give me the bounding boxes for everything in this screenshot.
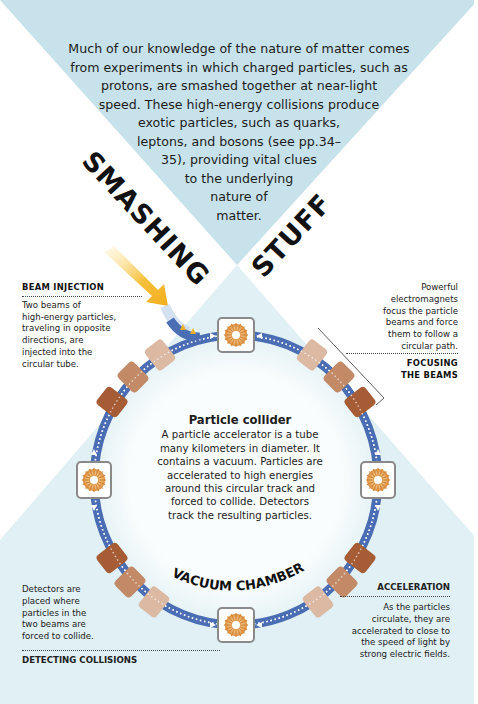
- acceleration-heading: ACCELERATION: [377, 582, 450, 594]
- label-line: particles in the: [22, 608, 122, 620]
- beam-injection-heading: BEAM INJECTION: [22, 282, 142, 294]
- focusing-heading: FOCUSING THE BEAMS: [401, 358, 458, 382]
- detector-top-icon: [218, 318, 254, 352]
- label-detecting-body: Detectors are placed where particles in …: [22, 584, 122, 643]
- leader-detecting: [22, 650, 220, 651]
- label-line: focus the particle: [348, 306, 458, 318]
- detector-right-icon: [361, 462, 395, 498]
- center-line: accelerated to high energies: [140, 469, 340, 482]
- detecting-collisions-heading: DETECTING COLLISIONS: [22, 655, 137, 667]
- particle-collider-description: Particle collider A particle accelerator…: [140, 414, 340, 522]
- label-line: placed where: [22, 596, 122, 608]
- label-line: accelerated to close to: [320, 626, 450, 638]
- label-line: them to follow a: [348, 329, 458, 341]
- label-line: Two beams of: [22, 300, 142, 312]
- center-line: around this circular track and: [140, 482, 340, 495]
- center-line: many kilometers in diameter. It: [140, 442, 340, 455]
- label-line: high-energy particles,: [22, 312, 142, 324]
- label-focusing-body: Powerful electromagnets focus the partic…: [348, 282, 458, 353]
- center-line: track the resulting particles.: [140, 509, 340, 522]
- label-line: traveling in opposite: [22, 323, 142, 335]
- label-line: two beams are: [22, 619, 122, 631]
- label-line: circular tube.: [22, 359, 142, 371]
- particle-collider-title: Particle collider: [140, 414, 340, 427]
- label-line: circulate, they are: [320, 614, 450, 626]
- heading-line: THE BEAMS: [401, 370, 458, 382]
- center-line: A particle accelerator is a tube: [140, 428, 340, 441]
- label-line: the speed of light by: [320, 637, 450, 649]
- label-line: As the particles: [320, 602, 450, 614]
- label-line: directions, are: [22, 335, 142, 347]
- label-line: beams and force: [348, 317, 458, 329]
- label-line: electromagnets: [348, 294, 458, 306]
- label-line: forced to collide.: [22, 631, 122, 643]
- label-line: Powerful: [348, 282, 458, 294]
- detector-left-icon: [77, 462, 111, 498]
- label-line: injected into the: [22, 347, 142, 359]
- vacuum-chamber-label: VACUUM CHAMBER: [170, 560, 306, 594]
- label-line: circular path.: [348, 341, 458, 353]
- center-line: forced to collide. Detectors: [140, 495, 340, 508]
- leader-acceleration: [340, 596, 450, 597]
- label-beam-injection: BEAM INJECTION Two beams of high-energy …: [22, 282, 142, 371]
- center-line: contains a vacuum. Particles are: [140, 455, 340, 468]
- label-line: Detectors are: [22, 584, 122, 596]
- leader-focusing: [346, 353, 458, 354]
- heading-line: FOCUSING: [401, 358, 458, 370]
- detector-bottom-icon: [218, 608, 254, 642]
- label-line: strong electric fields.: [320, 649, 450, 661]
- label-acceleration-body: As the particles circulate, they are acc…: [320, 602, 450, 661]
